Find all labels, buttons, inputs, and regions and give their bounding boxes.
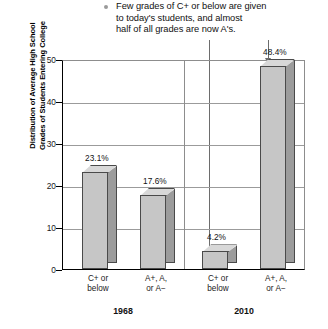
bar-value-label: 23.1% (85, 153, 109, 163)
bar-front-face (82, 172, 108, 269)
x-category-label: A+, A, or A− (241, 274, 311, 294)
group-separator (184, 61, 185, 269)
bar-value-label: 4.2% (207, 232, 226, 242)
plot-area: 23.1%17.6%4.2%48.4% (62, 60, 305, 270)
bar-side-face (166, 189, 175, 263)
bar-value-label: 17.6% (143, 176, 167, 186)
y-tick-label: 30 (32, 139, 56, 149)
y-tick-label: 40 (32, 97, 56, 107)
caption-text: Few grades of C+ or below are given to t… (116, 1, 320, 36)
bullet-icon (104, 5, 108, 9)
chart-figure: Few grades of C+ or below are given to t… (0, 0, 328, 329)
bar-side-face (108, 166, 117, 263)
y-axis-label: Distribution of Average High School Grad… (28, 0, 47, 186)
y-tick-mark (56, 270, 62, 271)
bar: 17.6% (140, 195, 166, 269)
x-category-label: A+, A, or A− (121, 274, 191, 294)
x-group-label: 2010 (199, 306, 289, 316)
bar-front-face (140, 195, 166, 269)
bar: 23.1% (82, 172, 108, 269)
bar-side-face (286, 60, 295, 263)
y-tick-label: 50 (32, 55, 56, 65)
bar-front-face (260, 66, 286, 269)
x-group-label: 1968 (78, 306, 168, 316)
y-tick-label: 10 (32, 223, 56, 233)
bar: 4.2% (202, 251, 228, 269)
y-tick-label: 20 (32, 181, 56, 191)
bar: 48.4% (260, 66, 286, 269)
bar-front-face (202, 251, 228, 269)
y-tick-label: 0 (32, 265, 56, 275)
bar-value-label: 48.4% (263, 47, 287, 57)
